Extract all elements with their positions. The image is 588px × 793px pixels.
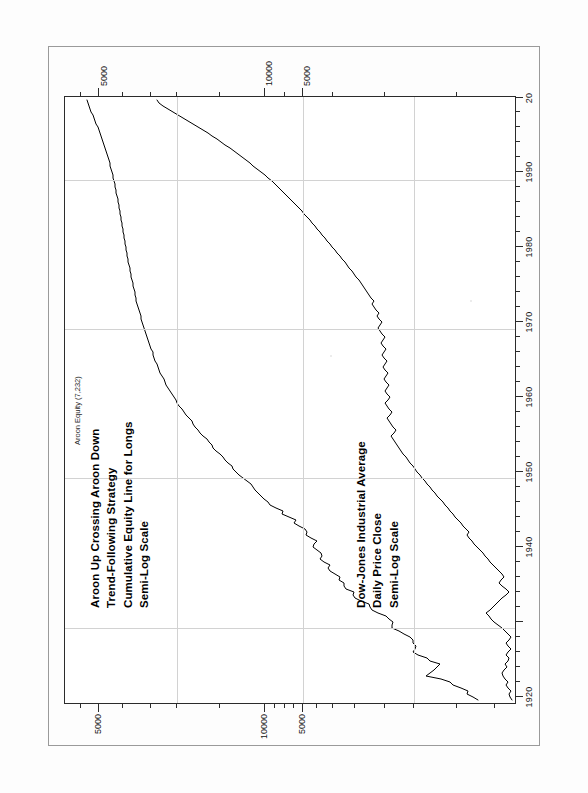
series-label-djia: Dow-Jones Industrial Average Daily Price… <box>353 441 402 608</box>
y-axis-label-5000-upper: 5000 <box>93 714 103 734</box>
y-tick-minor <box>354 704 355 708</box>
y-tick-minor <box>150 92 151 96</box>
x-tick-minor <box>516 681 520 682</box>
curves-svg <box>65 97 515 703</box>
y-axis-left: 5000 10000 5000 <box>64 704 516 756</box>
y-axis-right: 5000 10000 5000 <box>64 44 516 96</box>
x-tick-minor <box>516 456 520 457</box>
x-tick-1920 <box>516 696 523 697</box>
series-label-aroon-line-1: Aroon Up Crossing Aroon Down <box>87 421 103 608</box>
y-tick-minor <box>122 92 123 96</box>
x-tick-minor <box>516 411 520 412</box>
figure: Aroon Equity (7,232) Aroon Up Crossing A… <box>42 38 546 756</box>
x-tick-minor <box>516 666 520 667</box>
x-axis-label-1960: 1960 <box>524 386 534 407</box>
x-tick-minor <box>516 516 520 517</box>
gridline-value-lower <box>414 97 415 703</box>
y-axis-label-5000-lower-dup: 5000 <box>302 65 312 85</box>
x-tick-minor <box>516 291 520 292</box>
x-tick-minor <box>516 561 520 562</box>
gridline-value-middle <box>303 97 304 703</box>
x-tick-1940 <box>516 546 523 547</box>
y-tick-minor <box>494 704 495 708</box>
series-label-djia-line-1: Dow-Jones Industrial Average <box>353 441 369 608</box>
x-tick-minor <box>516 351 520 352</box>
plot-inner: Aroon Equity (7,232) Aroon Up Crossing A… <box>65 97 515 703</box>
x-tick-minor <box>516 531 520 532</box>
y-tick-minor <box>316 704 317 708</box>
y-tick-minor <box>456 704 457 708</box>
x-tick-2000 <box>516 97 523 98</box>
y-tick-minor <box>219 92 220 96</box>
y-tick-minor <box>384 92 385 96</box>
rotated-figure-wrapper: Aroon Equity (7,232) Aroon Up Crossing A… <box>42 38 546 756</box>
x-tick-minor <box>516 651 520 652</box>
scan-speck <box>330 355 332 357</box>
gridline-year-1970 <box>65 329 515 330</box>
x-axis: 1920 1940 1950 1960 1970 1980 1990 20 <box>516 96 546 704</box>
x-axis-label-1990: 1990 <box>524 161 534 182</box>
series-label-djia-line-3: Semi-Log Scale <box>386 441 402 608</box>
series-path-aroon-equity <box>87 100 478 700</box>
y-tick-minor <box>332 704 333 708</box>
y-tick-minor <box>456 92 457 96</box>
y-tick-minor <box>274 704 275 708</box>
x-tick-minor <box>516 606 520 607</box>
y-tick-10000 <box>264 704 265 712</box>
x-tick-minor <box>516 186 520 187</box>
y-tick-minor <box>150 704 151 708</box>
x-tick-minor <box>516 201 520 202</box>
x-tick-1990 <box>516 171 523 172</box>
scanned-page: Aroon Equity (7,232) Aroon Up Crossing A… <box>0 0 588 793</box>
y-tick-minor <box>284 92 285 96</box>
x-tick-1980 <box>516 246 523 247</box>
x-axis-label-1970: 1970 <box>524 311 534 332</box>
y-tick-minor <box>332 92 333 96</box>
y-tick-minor <box>80 704 81 708</box>
aroon-equity-annotation: Aroon Equity (7,232) <box>73 376 82 445</box>
y-tick-minor <box>176 704 177 708</box>
x-tick-minor <box>516 591 520 592</box>
plot-area: Aroon Equity (7,232) Aroon Up Crossing A… <box>64 96 516 704</box>
y-tick-10000-dup <box>264 88 265 96</box>
y-axis-label-5000-upper-dup: 5000 <box>99 65 109 85</box>
x-tick-minor <box>516 576 520 577</box>
series-label-aroon-line-2: Trend-Following Strategy <box>103 421 119 608</box>
x-tick-minor <box>516 216 520 217</box>
y-axis-label-10000: 10000 <box>259 714 269 739</box>
x-tick-minor <box>516 501 520 502</box>
series-path-djia <box>157 100 512 700</box>
x-tick-1950 <box>516 471 523 472</box>
x-tick-minor <box>516 141 520 142</box>
x-axis-label-1980: 1980 <box>524 236 534 257</box>
x-tick-minor <box>516 486 520 487</box>
series-label-djia-line-2: Daily Price Close <box>369 441 385 608</box>
gridline-year-1990 <box>65 180 515 181</box>
x-tick-minor <box>516 426 520 427</box>
x-tick-minor <box>516 126 520 127</box>
y-tick-minor <box>293 704 294 708</box>
x-axis-label-1940: 1940 <box>524 536 534 557</box>
x-tick-1930 <box>516 621 523 622</box>
y-tick-minor <box>80 92 81 96</box>
y-tick-minor <box>176 92 177 96</box>
series-label-aroon-line-3: Cumulative Equity Line for Longs <box>120 421 136 608</box>
y-tick-5000-lower <box>302 704 303 712</box>
scan-speck <box>140 520 142 522</box>
y-tick-minor <box>284 704 285 708</box>
y-tick-5000-upper <box>98 704 99 712</box>
scan-speck <box>470 300 472 302</box>
y-tick-5000-upper-dup <box>98 88 99 96</box>
gridline-year-1930 <box>65 628 515 629</box>
x-tick-minor <box>516 381 520 382</box>
x-tick-minor <box>516 111 520 112</box>
y-tick-5000-lower-dup <box>302 88 303 96</box>
x-axis-label-2000: 20 <box>524 92 534 102</box>
x-tick-1960 <box>516 396 523 397</box>
x-tick-minor <box>516 261 520 262</box>
x-tick-minor <box>516 306 520 307</box>
y-tick-minor <box>219 704 220 708</box>
y-tick-minor <box>413 704 414 708</box>
x-tick-minor <box>516 366 520 367</box>
x-tick-minor <box>516 276 520 277</box>
